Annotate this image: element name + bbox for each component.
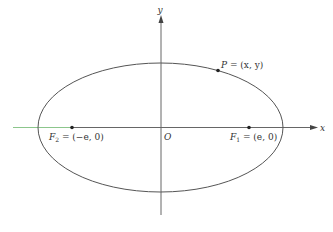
y-axis: y xyxy=(156,5,163,215)
point-p: P = (x, y) xyxy=(216,60,263,72)
focus-f2-dot xyxy=(70,126,74,130)
focus-f1-label: F1 = (e, 0) xyxy=(229,132,277,143)
focus-f1-dot xyxy=(247,126,251,130)
y-axis-arrow-icon xyxy=(159,15,164,23)
y-axis-label: y xyxy=(156,5,163,15)
origin-label: O xyxy=(164,132,172,142)
focus-f2-label: F2 = (−e, 0) xyxy=(48,132,104,143)
point-p-label: P = (x, y) xyxy=(220,60,263,70)
ellipse-diagram: x y O P = (x, y) F2 = (−e, 0) F1 = (e, 0… xyxy=(0,0,333,232)
x-axis-label: x xyxy=(320,123,325,133)
point-p-dot xyxy=(216,69,220,73)
focus-f1: F1 = (e, 0) xyxy=(229,126,277,143)
focus-f2: F2 = (−e, 0) xyxy=(48,126,104,143)
x-axis-arrow-icon xyxy=(310,125,318,130)
